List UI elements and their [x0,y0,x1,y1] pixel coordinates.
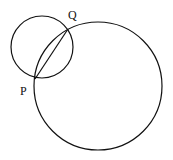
label-q: Q [68,8,77,22]
chord-pq [35,29,68,79]
large-circle [34,22,162,150]
diagram-canvas: Q P [0,0,173,160]
label-p: P [20,84,27,98]
